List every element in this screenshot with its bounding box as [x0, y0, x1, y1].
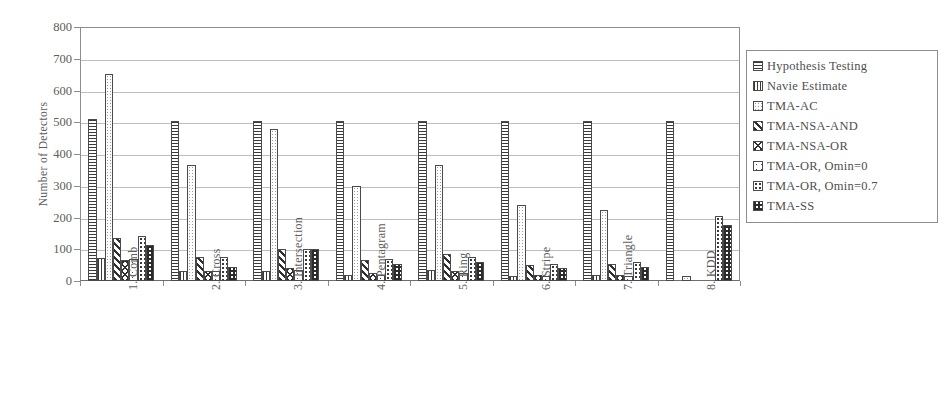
bar-group	[245, 27, 328, 281]
checker-swatch	[753, 201, 763, 211]
y-tick-label: 600	[28, 84, 72, 97]
bar	[278, 249, 286, 281]
chevron-swatch	[753, 141, 763, 151]
x-tick-label: 1. Comb	[126, 247, 141, 290]
legend-label: TMA-SS	[767, 199, 814, 214]
x-tick-mark	[575, 281, 576, 286]
bar-group	[328, 27, 411, 281]
legend-item: Navie Estimate	[753, 76, 931, 96]
sparse-dots-swatch	[753, 161, 763, 171]
bar-group	[410, 27, 493, 281]
x-tick-label: 6. Stripe	[539, 247, 554, 290]
x-tick-mark	[493, 281, 494, 286]
bar	[171, 121, 179, 281]
legend-item: TMA-AC	[753, 96, 931, 116]
x-tick-mark	[328, 281, 329, 286]
bar	[600, 210, 608, 281]
bar	[443, 254, 451, 281]
bar	[113, 238, 121, 281]
bar	[583, 121, 591, 281]
legend-label: Navie Estimate	[767, 79, 847, 94]
y-tick-label: 400	[28, 148, 72, 161]
bar	[361, 260, 369, 281]
legend-label: TMA-OR, Omin=0	[767, 159, 868, 174]
bar	[476, 262, 484, 281]
x-tick-label: 3. Intersection	[291, 217, 306, 290]
x-tick-label: 8. KDD	[704, 250, 719, 290]
x-tick-mark	[80, 281, 81, 286]
legend-item: TMA-NSA-OR	[753, 136, 931, 156]
bar	[97, 258, 105, 281]
y-tick-label: 500	[28, 116, 72, 129]
bar	[270, 129, 278, 281]
bar	[427, 270, 435, 281]
bars-layer	[80, 27, 740, 281]
legend-item: TMA-SS	[753, 196, 931, 216]
bar	[641, 267, 649, 281]
x-tick-mark	[658, 281, 659, 286]
legend-label: TMA-OR, Omin=0.7	[767, 179, 878, 194]
bar	[666, 121, 674, 281]
y-tick-label: 800	[28, 21, 72, 34]
bar	[262, 271, 270, 281]
bar	[558, 268, 566, 281]
vertical-lines-swatch	[753, 81, 763, 91]
x-tick-mark	[740, 281, 741, 286]
grid-dots-swatch	[753, 181, 763, 191]
x-tick-mark	[410, 281, 411, 286]
x-tick-label: 2. Cross	[209, 248, 224, 290]
bar	[501, 121, 509, 281]
horizontal-lines-swatch	[753, 61, 763, 71]
legend-item: TMA-NSA-AND	[753, 116, 931, 136]
bar	[179, 271, 187, 281]
bar-group	[80, 27, 163, 281]
bar	[608, 264, 616, 281]
bar-group	[658, 27, 741, 281]
bar	[105, 74, 113, 281]
bar	[88, 119, 96, 281]
bar	[187, 165, 195, 281]
legend-item: Hypothesis Testing	[753, 56, 931, 76]
bar	[196, 257, 204, 281]
legend-label: TMA-NSA-AND	[767, 119, 858, 134]
bar-group	[493, 27, 576, 281]
legend: Hypothesis TestingNavie EstimateTMA-ACTM…	[746, 50, 938, 223]
y-tick-label: 700	[28, 53, 72, 66]
bar-chart: Number of Detectors 80070060050040030020…	[0, 0, 949, 401]
bar	[418, 121, 426, 281]
bar	[311, 249, 319, 281]
y-tick-label: 100	[28, 243, 72, 256]
legend-label: TMA-AC	[767, 99, 818, 114]
x-tick-label: 4. Pentagram	[374, 223, 389, 290]
bar	[253, 121, 261, 281]
legend-label: Hypothesis Testing	[767, 59, 867, 74]
bar	[393, 264, 401, 281]
x-tick-mark	[245, 281, 246, 286]
bar	[336, 121, 344, 281]
x-tick-label: 7. Triangle	[621, 235, 636, 290]
bar	[435, 165, 443, 281]
legend-label: TMA-NSA-OR	[767, 139, 848, 154]
legend-item: TMA-OR, Omin=0.7	[753, 176, 931, 196]
bar	[526, 265, 534, 281]
bar	[723, 225, 731, 281]
bar	[146, 245, 154, 282]
bar-group	[163, 27, 246, 281]
x-tick-label: 5. Ring	[456, 253, 471, 290]
bar	[352, 186, 360, 281]
light-dots-swatch	[753, 101, 763, 111]
bar	[517, 205, 525, 281]
bar	[228, 267, 236, 281]
x-axis: 1. Comb2. Cross3. Intersection4. Pentagr…	[80, 281, 740, 401]
x-tick-mark	[163, 281, 164, 286]
bar-group	[575, 27, 658, 281]
y-tick-label: 0	[28, 275, 72, 288]
diagonal-dark-swatch	[753, 121, 763, 131]
y-tick-label: 200	[28, 211, 72, 224]
y-tick-label: 300	[28, 180, 72, 193]
legend-item: TMA-OR, Omin=0	[753, 156, 931, 176]
